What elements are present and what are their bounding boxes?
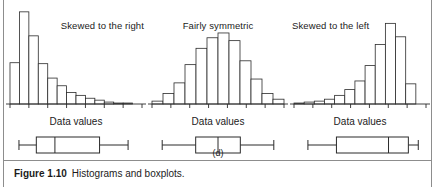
figure-1-10: Skewed to the right Data values Fairly s… xyxy=(0,0,436,187)
caption-divider xyxy=(3,160,432,161)
panel-skewed-right: Skewed to the right Data values xyxy=(6,4,146,156)
histogram-fairly-symmetric xyxy=(148,4,288,116)
axis-label-a: Data values xyxy=(6,116,146,127)
caption-number: Figure 1.10 xyxy=(14,168,67,179)
figure-caption: Figure 1.10Histograms and boxplots. xyxy=(14,168,185,179)
axis-label-c: Data values xyxy=(290,116,430,127)
histogram-skewed-right xyxy=(6,4,146,116)
subfigure-label: (d) xyxy=(0,148,436,158)
panel-fairly-symmetric: Fairly symmetric Data values xyxy=(148,4,288,156)
histogram-skewed-left xyxy=(290,4,430,116)
panel-skewed-left: Skewed to the left Data values xyxy=(290,4,430,156)
page-rule-right xyxy=(431,0,432,187)
page-rule-left xyxy=(3,0,4,187)
axis-label-b: Data values xyxy=(148,116,288,127)
caption-text: Histograms and boxplots. xyxy=(67,168,185,179)
